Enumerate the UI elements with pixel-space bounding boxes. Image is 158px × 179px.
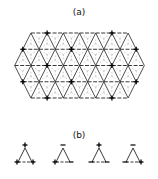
- lattice-edge: [104, 33, 112, 49]
- lattice-median: [96, 44, 100, 47]
- lattice-median: [91, 44, 95, 47]
- lattice-edge: [104, 82, 112, 98]
- plus-marker: [45, 96, 50, 101]
- lattice-edge: [47, 82, 55, 98]
- triangular-lattice-diagram: [0, 0, 158, 179]
- lattice-median: [55, 35, 59, 38]
- lattice-edge: [136, 66, 144, 82]
- lattice-median: [112, 44, 116, 47]
- lattice-median: [59, 76, 63, 79]
- lattice-edge: [39, 82, 47, 98]
- plus-marker: [134, 79, 139, 84]
- lattice-median: [26, 76, 30, 79]
- lattice-median: [63, 52, 67, 55]
- lattice-edge: [71, 33, 79, 49]
- lattice-median: [96, 52, 100, 55]
- lattice-median: [55, 68, 59, 71]
- lattice-median: [71, 35, 75, 38]
- triangle-edge: [25, 148, 32, 162]
- lattice-median: [75, 52, 79, 55]
- triangle-edge: [63, 148, 70, 162]
- lattice-edge: [120, 49, 128, 65]
- lattice-median: [88, 93, 92, 96]
- lattice-median: [26, 44, 30, 47]
- lattice-median: [99, 35, 103, 38]
- lattice-median: [120, 60, 124, 63]
- lattice-median: [51, 60, 55, 63]
- lattice-median: [35, 35, 39, 38]
- lattice-edge: [31, 82, 39, 98]
- triangle-edge: [99, 148, 106, 162]
- lattice-edge: [136, 49, 144, 65]
- lattice-median: [71, 93, 75, 96]
- lattice-median: [120, 35, 124, 38]
- lattice-edge: [31, 66, 39, 82]
- lattice-median: [31, 52, 35, 55]
- lattice-median: [23, 68, 27, 71]
- plus-marker: [45, 31, 50, 36]
- lattice-median: [83, 60, 87, 63]
- lattice-median: [88, 35, 92, 38]
- lattice-median: [80, 52, 84, 55]
- lattice-median: [80, 84, 84, 87]
- lattice-median: [51, 93, 55, 96]
- lattice-median: [112, 76, 116, 79]
- lattice-edge: [63, 82, 71, 98]
- lattice-median: [88, 60, 92, 63]
- lattice-median: [47, 84, 51, 87]
- lattice-edge: [31, 49, 39, 65]
- lattice-edge: [31, 33, 39, 49]
- lattice-median: [55, 60, 59, 63]
- lattice-edge: [128, 66, 136, 82]
- lattice-median: [75, 76, 79, 79]
- lattice-median: [59, 52, 63, 55]
- lattice-median: [75, 44, 79, 47]
- lattice-edge: [104, 66, 112, 82]
- lattice-median: [39, 35, 43, 38]
- lattice-median: [51, 35, 55, 38]
- lattice-median: [124, 52, 128, 55]
- lattice-edge: [88, 49, 96, 65]
- lattice-median: [128, 44, 132, 47]
- lattice-median: [31, 76, 35, 79]
- lattice-median: [99, 68, 103, 71]
- lattice-median: [128, 52, 132, 55]
- lattice-median: [63, 44, 67, 47]
- lattice-median: [31, 44, 35, 47]
- lattice-edge: [47, 33, 55, 49]
- lattice-median: [96, 76, 100, 79]
- lattice-median: [43, 76, 47, 79]
- lattice-median: [136, 68, 140, 71]
- lattice-median: [83, 93, 87, 96]
- lattice-edge: [23, 66, 31, 82]
- lattice-edge: [80, 49, 88, 65]
- lattice-edge: [96, 33, 104, 49]
- lattice-edge: [80, 33, 88, 49]
- lattice-median: [112, 84, 116, 87]
- lattice-median: [132, 68, 136, 71]
- lattice-edge: [88, 33, 96, 49]
- lattice-median: [67, 93, 71, 96]
- spin-marker: [97, 143, 102, 148]
- lattice-median: [116, 68, 120, 71]
- lattice-median: [83, 35, 87, 38]
- plus-marker: [109, 63, 114, 68]
- lattice-edge: [71, 49, 79, 65]
- lattice-median: [124, 44, 128, 47]
- lattice-edge: [15, 49, 23, 65]
- lattice-edge: [47, 49, 55, 65]
- lattice-edge: [128, 82, 136, 98]
- lattice-edge: [63, 66, 71, 82]
- lattice-edge: [23, 82, 31, 98]
- lattice-median: [136, 60, 140, 63]
- lattice-median: [39, 68, 43, 71]
- lattice-edge: [88, 66, 96, 82]
- lattice-median: [18, 68, 22, 71]
- lattice-edge: [55, 82, 63, 98]
- lattice-median: [120, 93, 124, 96]
- lattice-edge: [96, 82, 104, 98]
- lattice-median: [47, 76, 51, 79]
- lattice-median: [43, 44, 47, 47]
- lattice-edge: [112, 49, 120, 65]
- triangle-edge: [126, 148, 133, 162]
